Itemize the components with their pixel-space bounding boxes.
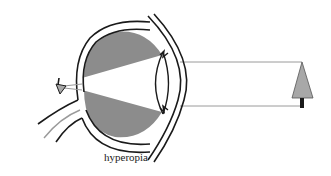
hyperopia-diagram: hyperopia	[0, 0, 331, 176]
light-rays	[180, 62, 302, 106]
optic-nerve	[38, 100, 82, 142]
diagram-caption: hyperopia	[96, 151, 156, 163]
image-tree	[56, 78, 82, 94]
object-tree	[292, 62, 313, 108]
vitreous-shading	[82, 31, 162, 137]
